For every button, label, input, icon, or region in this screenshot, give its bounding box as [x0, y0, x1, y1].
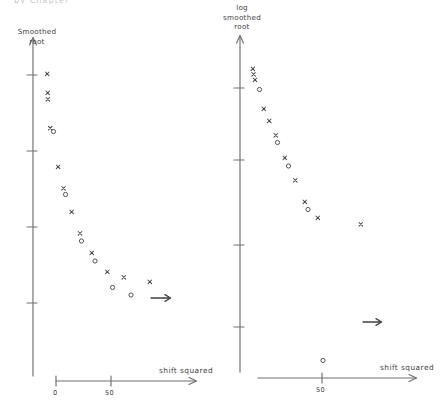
right-plot-canvas: [222, 0, 445, 414]
right-plot-panel: log smoothed root shift squared 50: [222, 0, 445, 414]
right-trend-arrow: [363, 319, 382, 326]
right-x-axis: [258, 373, 417, 383]
right-x-axis-label: shift squared: [380, 363, 434, 373]
right-series-x-markers: [251, 67, 363, 226]
left-series-o-markers: [51, 129, 133, 297]
left-x-axis-label: shift squared: [159, 366, 213, 376]
left-xtick-50: 50: [105, 389, 114, 398]
left-trend-arrow: [151, 295, 171, 302]
left-xtick-0: 0: [53, 389, 57, 398]
left-y-axis-label: Smoothed root: [10, 27, 64, 46]
left-plot-canvas: [0, 0, 222, 414]
left-plot-panel: Smoothed root shift squared 0 50: [0, 0, 222, 414]
scatter-plot-figure: by Chapter: [0, 0, 445, 414]
right-series-o-markers: [257, 87, 325, 362]
left-x-axis: [56, 376, 197, 386]
left-series-x-markers: [45, 72, 151, 284]
left-y-axis: [27, 38, 37, 377]
right-y-axis-label: log smoothed root: [216, 3, 268, 32]
right-y-axis: [234, 36, 244, 373]
right-xtick-50: 50: [316, 386, 325, 395]
